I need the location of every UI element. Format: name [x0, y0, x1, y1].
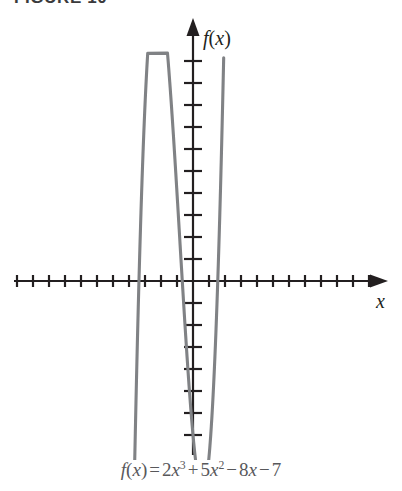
graph-plot-area: f(x) x — [0, 0, 402, 460]
y-axis-label: f(x) — [203, 27, 231, 50]
function-curve — [134, 53, 224, 460]
coordinate-graph: f(x) x — [0, 0, 402, 460]
arrow-up-icon — [187, 18, 200, 36]
x-axis-label: x — [375, 290, 385, 312]
figure-caption: f(x)=2x3+5x2−8x−7 — [0, 459, 402, 481]
arrow-right-icon — [370, 275, 388, 288]
